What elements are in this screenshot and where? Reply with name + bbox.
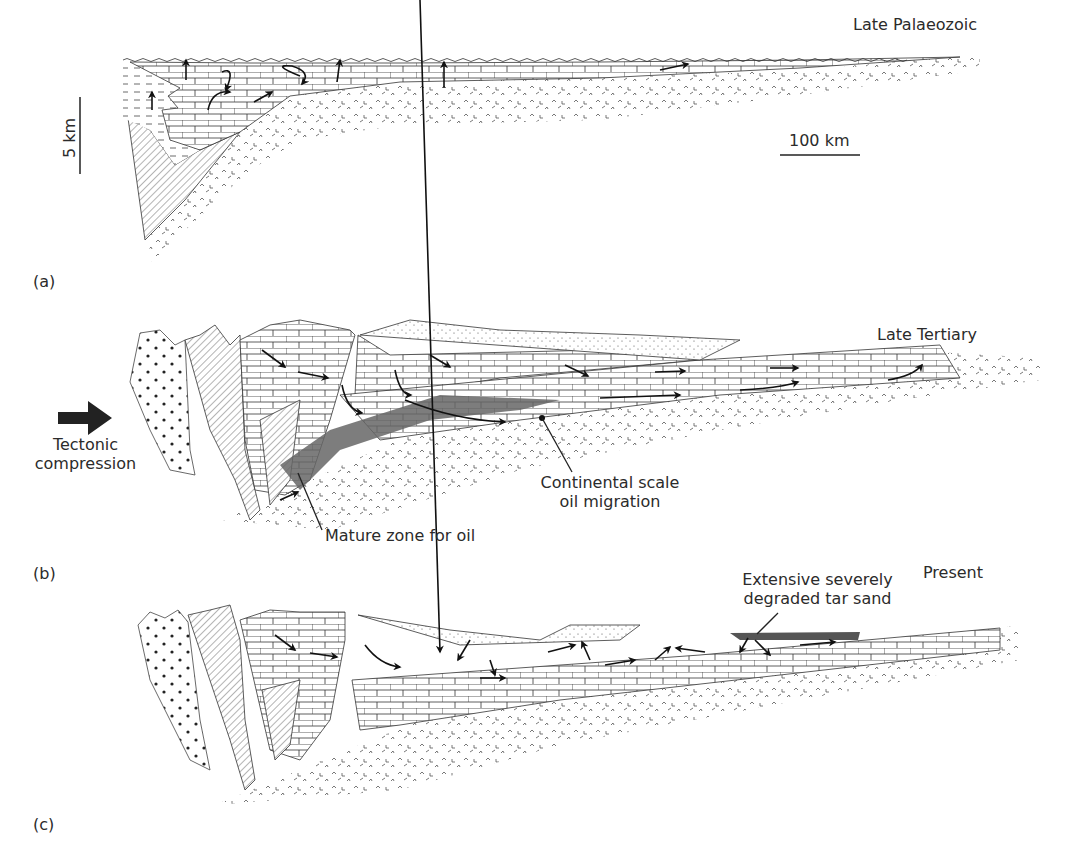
tectonic-label-line1: Tectonic [28, 435, 143, 454]
tar-sand-annotation-line2: degraded tar sand [735, 589, 900, 608]
panel-b-title: Late Tertiary [877, 325, 977, 344]
leader-line-tar [757, 613, 778, 634]
migration-annotation-line2: oil migration [530, 492, 690, 511]
panel-a-section [123, 55, 980, 262]
tectonic-label: Tectonic compression [28, 435, 143, 473]
migration-annotation: Continental scale oil migration [530, 473, 690, 511]
tar-sand-annotation: Extensive severely degraded tar sand [735, 570, 900, 608]
panel-b-id: (b) [33, 564, 56, 583]
panel-a-title: Late Palaeozoic [853, 15, 977, 34]
tectonic-compression-arrow-icon [58, 401, 112, 435]
vertical-scale-label: 5 km [60, 118, 79, 158]
panel-c-id: (c) [33, 815, 54, 834]
horizontal-scale-label: 100 km [789, 131, 849, 150]
migration-annotation-line1: Continental scale [530, 473, 690, 492]
panel-c-title: Present [923, 563, 983, 582]
panel-a-id: (a) [33, 272, 55, 291]
cross-section-figure [0, 0, 1065, 857]
mature-zone-annotation: Mature zone for oil [325, 526, 475, 545]
tectonic-label-line2: compression [28, 454, 143, 473]
tar-sand-annotation-line1: Extensive severely [735, 570, 900, 589]
